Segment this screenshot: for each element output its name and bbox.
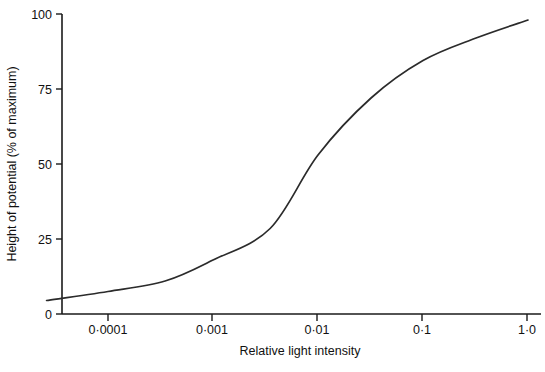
axes <box>62 14 541 314</box>
y-tick-labels: 0 25 50 75 100 <box>31 8 52 322</box>
y-tick-label-0: 0 <box>45 308 52 322</box>
data-series-line <box>47 20 528 301</box>
chart-svg: 0 25 50 75 100 0·0001 0·001 0·01 0·1 1·0… <box>0 0 545 372</box>
y-tick-label-50: 50 <box>38 158 52 172</box>
x-ticks <box>108 314 527 321</box>
x-tick-label-0.001: 0·001 <box>196 323 228 337</box>
x-tick-label-1.0: 1·0 <box>518 323 536 337</box>
x-tick-labels: 0·0001 0·001 0·01 0·1 1·0 <box>89 323 537 337</box>
x-tick-label-0.1: 0·1 <box>413 323 431 337</box>
x-axis-title: Relative light intensity <box>240 344 362 358</box>
chart-figure: 0 25 50 75 100 0·0001 0·001 0·01 0·1 1·0… <box>0 0 545 372</box>
y-tick-label-75: 75 <box>38 83 52 97</box>
y-ticks <box>56 14 62 314</box>
y-tick-label-25: 25 <box>38 233 52 247</box>
y-axis-title: Height of potential (% of maximum) <box>5 66 19 261</box>
x-tick-label-0.0001: 0·0001 <box>89 323 128 337</box>
x-tick-label-0.01: 0·01 <box>304 323 329 337</box>
y-tick-label-100: 100 <box>31 8 52 22</box>
